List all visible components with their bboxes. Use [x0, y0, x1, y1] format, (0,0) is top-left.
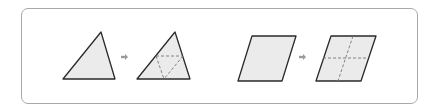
- parallelogram-divided-shape: [316, 36, 376, 81]
- right-arrow-icon: [299, 54, 306, 60]
- parallelogram-shape: [238, 36, 296, 81]
- right-arrow-icon: [121, 54, 128, 60]
- diagram-canvas: [0, 0, 442, 109]
- triangle-shape: [63, 32, 115, 79]
- triangle-divided-shape: [137, 32, 190, 79]
